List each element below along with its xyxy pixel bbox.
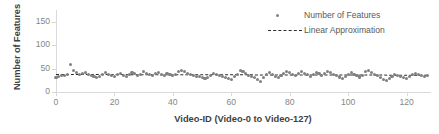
x-tick-mark (348, 92, 349, 96)
y-tick-label: 0 (24, 87, 50, 96)
data-point (385, 79, 388, 82)
y-axis-tick-labels: 050100150 (20, 0, 50, 134)
x-tick-mark (173, 92, 174, 96)
x-tick-label: 80 (275, 97, 305, 107)
features-scatter-chart: Number of Features 050100150 Video-ID (V… (0, 0, 439, 134)
x-tick-label: 40 (158, 97, 188, 107)
y-tick-mark (52, 69, 56, 70)
x-tick-label: 60 (216, 97, 246, 107)
y-tick-label: 50 (24, 64, 50, 73)
x-tick-mark (407, 92, 408, 96)
legend-item-number-of-features: Number of Features (268, 8, 433, 23)
x-tick-label: 120 (392, 97, 422, 107)
data-point (139, 73, 142, 76)
x-axis-title: Video-ID (Video-0 to Video-127) (56, 113, 430, 125)
data-point (174, 73, 177, 76)
data-point (233, 75, 236, 78)
legend-label-linear-approximation: Linear Approximation (304, 23, 385, 38)
x-tick-mark (290, 92, 291, 96)
legend-dashed-line-icon (268, 30, 302, 31)
x-tick-label: 20 (99, 97, 129, 107)
data-point (236, 73, 239, 76)
x-tick-mark (56, 92, 57, 96)
y-tick-label: 100 (24, 40, 50, 49)
y-tick-mark (52, 22, 56, 23)
legend-item-linear-approximation: Linear Approximation (268, 23, 433, 38)
data-point (361, 74, 364, 77)
chart-legend: Number of Features Linear Approximation (268, 8, 433, 38)
data-point (66, 73, 69, 76)
data-point (230, 78, 233, 81)
x-tick-label: 100 (333, 97, 363, 107)
legend-label-number-of-features: Number of Features (304, 8, 380, 23)
y-tick-label: 150 (24, 17, 50, 26)
data-point (347, 73, 350, 76)
x-tick-label: 0 (41, 97, 71, 107)
x-tick-mark (231, 92, 232, 96)
x-tick-mark (114, 92, 115, 96)
legend-marker-icon (276, 14, 279, 17)
data-point (259, 80, 262, 83)
data-point (262, 76, 265, 79)
data-point (426, 74, 429, 77)
data-point (69, 63, 72, 66)
y-tick-mark (52, 45, 56, 46)
